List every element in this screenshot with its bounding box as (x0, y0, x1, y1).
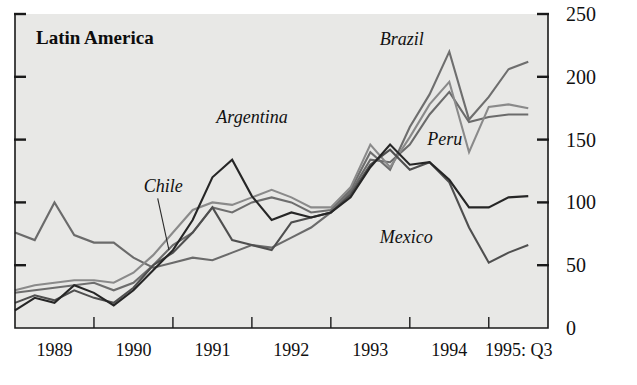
y-tick-label-100: 100 (566, 191, 596, 213)
x-axis-ticks (94, 317, 489, 328)
series-label-chile: Chile (144, 176, 183, 196)
y-tick-label-0: 0 (566, 317, 576, 339)
series-label-argentina: Argentina (215, 107, 287, 127)
chart-figure: 050100150200250 198919901991199219931994… (0, 0, 637, 385)
x-tick-label-1990: 1990 (115, 340, 151, 360)
chart-title: Latin America (36, 27, 154, 48)
latin-america-line-chart: 050100150200250 198919901991199219931994… (0, 0, 637, 385)
x-tick-label-1991: 1991 (194, 340, 230, 360)
y-tick-label-50: 50 (566, 254, 586, 276)
series-label-mexico: Mexico (379, 227, 433, 247)
series-label-brazil: Brazil (380, 29, 424, 49)
y-tick-label-200: 200 (566, 66, 596, 88)
y-tick-label-150: 150 (566, 129, 596, 151)
x-tick-label-1993: 1993 (352, 340, 388, 360)
series-line-argentina (15, 145, 528, 311)
x-axis-tick-labels: 1989199019911992199319941995: Q3 (36, 340, 552, 360)
x-tick-label-1992: 1992 (273, 340, 309, 360)
y-tick-label-250: 250 (566, 3, 596, 25)
x-tick-label-1994: 1994 (431, 340, 467, 360)
y-axis-tick-labels: 050100150200250 (566, 3, 596, 339)
series-label-peru: Peru (426, 129, 462, 149)
x-tick-label-1995: 1995: Q3 (485, 340, 553, 360)
data-series-group (15, 52, 528, 311)
x-tick-label-1989: 1989 (36, 340, 72, 360)
